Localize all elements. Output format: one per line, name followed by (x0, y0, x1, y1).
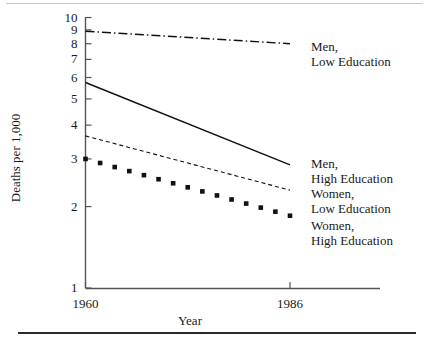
series-label-men-low-education: Men, Low Education (311, 39, 391, 69)
y-tick-label: 3 (48, 152, 78, 165)
series-label-men-high-education: Men, High Education (311, 156, 393, 186)
series-label-women-high-education: Women, High Education (311, 218, 393, 248)
y-tick-marks (86, 18, 92, 289)
y-tick-label: 4 (48, 118, 78, 131)
y-tick-label: 8 (48, 37, 78, 50)
series-line-0 (86, 31, 291, 44)
series-line-3 (83, 157, 292, 218)
series-label-line2: Low Education (311, 54, 391, 69)
y-tick-label: 2 (48, 200, 78, 213)
y-tick-label: 6 (48, 71, 78, 84)
series-label-line1: Men, (311, 156, 393, 171)
x-tick-label: 1960 (56, 297, 116, 310)
series-line-2 (86, 136, 291, 190)
data-series (83, 31, 292, 218)
series-label-women-low-education: Women, Low Education (311, 186, 391, 216)
series-label-line1: Women, (311, 218, 393, 233)
series-label-line2: Low Education (311, 201, 391, 216)
y-tick-label: 5 (48, 92, 78, 105)
series-label-line2: High Education (311, 233, 393, 248)
series-label-line1: Men, (311, 39, 391, 54)
series-line-1 (86, 83, 291, 165)
series-label-line1: Women, (311, 186, 391, 201)
y-tick-label: 1 (48, 281, 78, 294)
y-axis-title: Deaths per 1,000 (8, 98, 24, 218)
figure-container: 10987654321 19601986 Deaths per 1,000 Ye… (0, 0, 429, 347)
y-tick-label: 9 (48, 23, 78, 36)
series-label-line2: High Education (311, 171, 393, 186)
x-axis-title: Year (0, 313, 380, 329)
y-tick-label: 7 (48, 52, 78, 65)
x-tick-marks (86, 282, 291, 288)
x-tick-label: 1986 (260, 297, 320, 310)
